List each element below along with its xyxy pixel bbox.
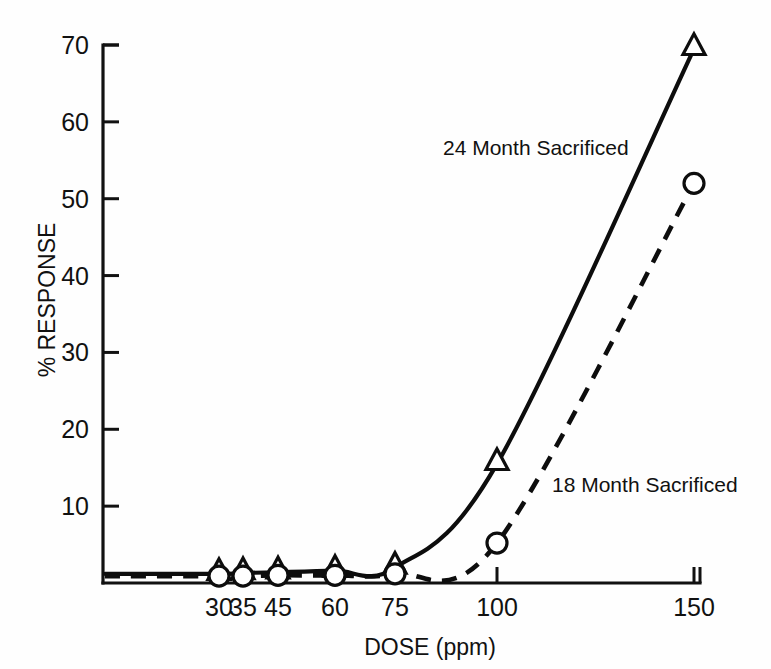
x-tick-label: 35 [229,593,257,621]
y-tick-label: 70 [61,31,89,59]
data-marker-circle [209,566,229,586]
y-tick-label: 10 [61,492,89,520]
data-marker-circle [385,564,405,584]
data-marker-layer [208,34,705,586]
data-marker-circle [268,565,288,585]
chart-canvas: 10203040506070 3035456075100150 DOSE (pp… [0,0,771,669]
y-tick-label: 40 [61,262,89,290]
data-marker-circle [325,565,345,585]
x-tick-label: 150 [673,593,715,621]
y-tick-label: 50 [61,185,89,213]
series-annotation-24-month: 24 Month Sacrificed [443,136,629,159]
data-series-layer [105,49,694,581]
data-marker-circle [233,566,253,586]
x-tick-label: 75 [381,593,409,621]
y-tick-label: 20 [61,415,89,443]
y-axis-ticks: 10203040506070 [61,31,119,520]
series-annotation-18-month: 18 Month Sacrificed [552,473,738,496]
y-tick-label: 30 [61,338,89,366]
series-line-24-month [105,49,694,576]
data-marker-circle [684,173,704,193]
x-tick-label: 45 [264,593,292,621]
x-tick-label: 100 [476,593,518,621]
data-marker-triangle [683,34,705,55]
x-tick-label: 60 [321,593,349,621]
y-axis-title: % RESPONSE [34,223,60,378]
y-tick-label: 60 [61,108,89,136]
data-marker-circle [487,533,507,553]
x-axis-title: DOSE (ppm) [364,634,496,660]
chart-figure: 10203040506070 3035456075100150 DOSE (pp… [0,0,771,669]
